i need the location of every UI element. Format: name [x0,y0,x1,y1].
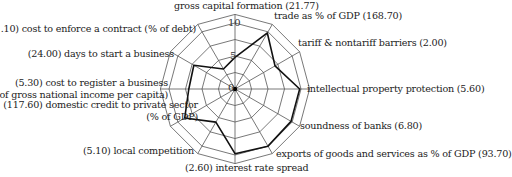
axis-label-register-business-2: (% of gross national income per capita) [0,89,168,100]
radial-tick-0: 0 [228,82,234,93]
radial-tick-5: 5 [230,50,236,61]
axis-label-ip-protection: intellectual property protection (5.60) [307,83,484,94]
axis-label-interest-rate: (2.60) interest rate spread [185,162,308,173]
axis-label-soundness-banks: soundness of banks (6.80) [300,120,422,131]
radial-tick-10: 10 [228,17,241,28]
axis-label-domestic-credit-2: (% of GDP) [146,111,198,122]
axis-label-register-business: (5.30) cost to register a business [15,77,168,88]
radar-spokes [160,14,309,163]
axis-label-local-competition: (5.10) local competition [83,145,194,156]
axis-label-tariff: tariff & nontariff barriers (2.00) [298,37,447,48]
axis-label-days-start-business: (24.00) days to start a business [28,48,174,59]
axis-label-trade: trade as % of GDP (168.70) [274,10,402,21]
axis-label-exports: exports of goods and services as % of GD… [276,148,512,159]
axis-label-domestic-credit: (117.60) domestic credit to private sect… [3,99,198,110]
axis-label-enforce-contract: (21.10) cost to enforce a contract (% of… [0,23,196,34]
